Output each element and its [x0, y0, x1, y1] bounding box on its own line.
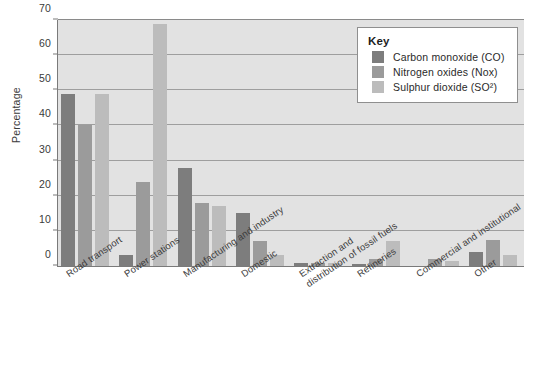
y-tick-label-0: 0 [45, 248, 51, 260]
y-axis-title: Percentage [10, 87, 22, 143]
legend-item: Nitrogen oxides (Nox) [368, 66, 505, 78]
bar [178, 168, 192, 266]
y-tick-mark-50 [53, 89, 58, 90]
bar-group [119, 20, 167, 266]
y-tick-label-40: 40 [39, 107, 51, 119]
legend-item: Sulphur dioxide (SO²) [368, 81, 505, 93]
legend-items: Carbon monoxide (CO)Nitrogen oxides (Nox… [368, 51, 505, 93]
y-tick-mark-40 [53, 124, 58, 125]
legend-swatch [372, 51, 384, 63]
bar [153, 24, 167, 266]
y-tick-mark-70 [53, 19, 58, 20]
bar-chart: Percentage 010203040506070 Road transpor… [0, 0, 546, 390]
legend-label: Nitrogen oxides (Nox) [393, 66, 498, 78]
y-tick-label-10: 10 [39, 213, 51, 225]
bar-group [294, 20, 342, 266]
bar-group [178, 20, 226, 266]
bar [61, 94, 75, 266]
y-tick-mark-30 [53, 159, 58, 160]
y-tick-label-60: 60 [39, 37, 51, 49]
bar-group [61, 20, 109, 266]
legend-label: Carbon monoxide (CO) [393, 51, 505, 63]
bar [503, 255, 517, 266]
legend-swatch [372, 81, 384, 93]
legend: Key Carbon monoxide (CO)Nitrogen oxides … [357, 27, 518, 103]
legend-swatch [372, 66, 384, 78]
y-tick-label-70: 70 [39, 2, 51, 14]
legend-title: Key [368, 35, 505, 47]
y-tick-mark-60 [53, 54, 58, 55]
y-tick-label-20: 20 [39, 178, 51, 190]
y-tick-mark-20 [53, 194, 58, 195]
y-tick-mark-10 [53, 229, 58, 230]
y-tick-label-50: 50 [39, 72, 51, 84]
legend-item: Carbon monoxide (CO) [368, 51, 505, 63]
legend-label: Sulphur dioxide (SO²) [393, 81, 497, 93]
y-tick-label-30: 30 [39, 143, 51, 155]
bar [78, 125, 92, 266]
y-tick-mark-0 [53, 265, 58, 266]
